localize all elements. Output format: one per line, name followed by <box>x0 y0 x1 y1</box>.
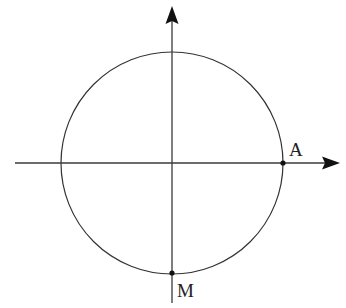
point-m-label: M <box>177 280 194 301</box>
diagram-canvas: A M <box>0 0 346 308</box>
point-m <box>169 270 174 275</box>
unit-circle-figure: A M <box>0 0 346 308</box>
point-a-label: A <box>289 139 303 160</box>
point-a <box>280 160 285 165</box>
